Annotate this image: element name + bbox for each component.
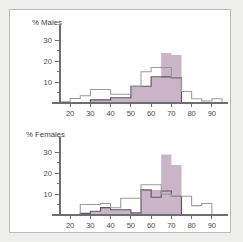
males-ytick-label-30: 30 xyxy=(44,36,52,45)
females-xtick-label-70: 70 xyxy=(167,221,175,230)
chart-females-title: % Females xyxy=(26,130,65,139)
chart-females-plot: 1020302030405060708090Age xyxy=(44,137,228,234)
males-xtick-label-50: 50 xyxy=(127,109,135,118)
figure-panel: % Males 1020302030405060708090Age % Fema… xyxy=(9,9,231,233)
chart-females-svg: % Females 1020302030405060708090Age xyxy=(10,122,232,234)
chart-males: % Males 1020302030405060708090Age xyxy=(10,10,232,122)
males-xtick-label-30: 30 xyxy=(86,109,94,118)
females-ytick-label-10: 10 xyxy=(44,190,52,199)
chart-males-title: % Males xyxy=(32,18,62,27)
males-ytick-label-10: 10 xyxy=(44,78,52,87)
females-xtick-label-30: 30 xyxy=(86,221,94,230)
chart-males-plot: 1020302030405060708090Age xyxy=(44,25,228,122)
females-xtick-label-60: 60 xyxy=(147,221,155,230)
males-ytick-label-20: 20 xyxy=(44,57,52,66)
males-xtick-label-90: 90 xyxy=(208,109,216,118)
females-ytick-label-20: 20 xyxy=(44,169,52,178)
females-ytick-label-30: 30 xyxy=(44,148,52,157)
males-xtick-label-80: 80 xyxy=(187,109,195,118)
figure-container: % Males 1020302030405060708090Age % Fema… xyxy=(0,0,243,242)
chart-females: % Females 1020302030405060708090Age xyxy=(10,122,232,234)
females-xlabel: Age xyxy=(134,232,148,234)
males-xtick-label-20: 20 xyxy=(66,109,74,118)
females-xtick-label-90: 90 xyxy=(208,221,216,230)
males-xtick-label-40: 40 xyxy=(106,109,114,118)
females-xtick-label-50: 50 xyxy=(127,221,135,230)
males-xtick-label-70: 70 xyxy=(167,109,175,118)
females-xtick-label-40: 40 xyxy=(106,221,114,230)
females-xtick-label-80: 80 xyxy=(187,221,195,230)
females-xtick-label-20: 20 xyxy=(66,221,74,230)
chart-males-svg: % Males 1020302030405060708090Age xyxy=(10,10,232,122)
males-xtick-label-60: 60 xyxy=(147,109,155,118)
